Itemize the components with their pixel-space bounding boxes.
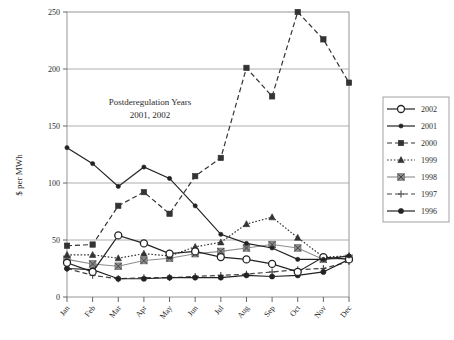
marker-filled-square xyxy=(346,80,351,85)
marker-filled-square xyxy=(321,37,326,42)
legend-label-2000: 2000 xyxy=(421,139,437,148)
y-tick-label: 50 xyxy=(52,236,60,245)
marker-open-circle xyxy=(192,248,199,255)
legend-label-2002: 2002 xyxy=(421,105,437,114)
marker-filled-circle xyxy=(219,232,223,236)
marker-filled-circle xyxy=(116,276,121,281)
y-axis-title: $ per MWh xyxy=(14,154,24,196)
legend-label-1997: 1997 xyxy=(421,190,437,199)
marker-filled-circle xyxy=(193,204,197,208)
x-tick-label: Mar xyxy=(108,303,124,319)
marker-filled-square xyxy=(141,189,146,194)
marker-open-circle xyxy=(243,256,250,263)
x-tick-label: Nov xyxy=(312,304,328,320)
marker-filled-circle xyxy=(142,165,146,169)
legend-label-1998: 1998 xyxy=(421,173,437,182)
marker-filled-circle xyxy=(321,269,326,274)
marker-open-circle xyxy=(140,240,147,247)
marker-open-circle xyxy=(115,232,122,239)
x-tick-label: Aug xyxy=(235,304,251,320)
marker-filled-square xyxy=(218,155,223,160)
marker-open-circle xyxy=(217,254,224,261)
marker-filled-circle xyxy=(218,275,223,280)
marker-gray-square-x xyxy=(398,174,405,181)
chart-container: 050100150200250$ per MWhJanFebMarAprMayJ… xyxy=(0,0,454,340)
annotation-line-2: 2001, 2002 xyxy=(130,110,171,120)
marker-filled-square xyxy=(90,242,95,247)
marker-filled-circle xyxy=(91,162,95,166)
x-tick-label: Jul xyxy=(213,303,226,317)
marker-filled-square xyxy=(192,173,197,178)
marker-filled-circle xyxy=(65,146,69,150)
marker-filled-circle xyxy=(141,276,146,281)
marker-gray-square-x xyxy=(115,263,122,270)
y-tick-label: 100 xyxy=(48,179,60,188)
marker-filled-square xyxy=(244,65,249,70)
marker-filled-circle xyxy=(270,246,274,250)
marker-filled-circle xyxy=(167,275,172,280)
annotation-line-1: Postderegulation Years xyxy=(109,97,192,107)
marker-filled-square xyxy=(295,9,300,14)
legend: 2002200120001999199819971996 xyxy=(383,97,449,222)
marker-filled-circle xyxy=(296,257,300,261)
marker-open-circle xyxy=(269,260,276,267)
marker-filled-circle xyxy=(193,275,198,280)
x-axis: JanFebMarAprMayJunJulAugSepOctNovDec xyxy=(58,297,354,321)
x-tick-label: Jun xyxy=(186,304,200,318)
marker-open-circle xyxy=(89,268,96,275)
marker-gray-square-x xyxy=(294,245,301,252)
legend-box xyxy=(383,97,449,222)
x-tick-label: Oct xyxy=(288,303,303,318)
legend-label-2001: 2001 xyxy=(421,122,437,131)
marker-filled-circle xyxy=(244,241,248,245)
chart-svg: 050100150200250$ per MWhJanFebMarAprMayJ… xyxy=(0,0,454,340)
marker-open-circle xyxy=(294,268,301,275)
marker-gray-square-x xyxy=(89,261,96,268)
x-tick-label: Apr xyxy=(134,303,149,319)
marker-filled-circle xyxy=(116,184,120,188)
x-tick-label: Jan xyxy=(58,304,72,318)
x-tick-label: Sep xyxy=(262,304,276,319)
marker-open-circle xyxy=(64,259,71,266)
x-tick-label: May xyxy=(158,304,174,321)
y-tick-label: 200 xyxy=(48,65,60,74)
marker-gray-square-x xyxy=(141,257,148,264)
legend-label-1999: 1999 xyxy=(421,156,437,165)
marker-filled-circle xyxy=(167,176,171,180)
marker-filled-square xyxy=(116,203,121,208)
marker-filled-square xyxy=(167,211,172,216)
y-tick-label: 0 xyxy=(56,293,60,302)
marker-filled-square xyxy=(64,243,69,248)
marker-filled-square xyxy=(269,94,274,99)
marker-open-circle xyxy=(398,106,405,113)
marker-filled-circle xyxy=(321,257,325,261)
marker-filled-circle xyxy=(347,254,351,258)
x-tick-label: Feb xyxy=(83,304,97,319)
marker-filled-circle xyxy=(244,273,249,278)
y-tick-label: 150 xyxy=(48,122,60,131)
legend-label-1996: 1996 xyxy=(421,207,437,216)
x-tick-label: Dec xyxy=(339,303,354,319)
marker-filled-circle xyxy=(269,274,274,279)
marker-filled-circle xyxy=(398,208,403,213)
marker-open-circle xyxy=(166,250,173,257)
marker-filled-square xyxy=(398,140,403,145)
marker-filled-circle xyxy=(399,124,403,128)
y-tick-label: 250 xyxy=(48,8,60,17)
